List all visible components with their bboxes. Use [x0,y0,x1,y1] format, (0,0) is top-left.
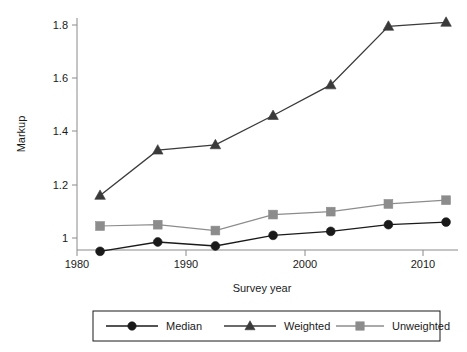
x-tick-label-2010: 2010 [411,258,435,270]
x-tick-label-2000: 2000 [293,258,317,270]
legend-label-weighted: Weighted [284,320,330,332]
data-point-unweighted-2012 [442,196,451,205]
y-tick-label-1.4: 1.4 [53,125,68,137]
markup-line-chart: 1.8 1.6 1.4 1.2 1 1980 1990 2000 2010 Ma… [0,0,467,352]
x-tick-label-1980: 1980 [65,258,89,270]
data-point-median-2002 [326,227,335,236]
y-tick-label-1.6: 1.6 [53,72,68,84]
data-point-unweighted-1987 [153,220,162,229]
chart-canvas: 1.8 1.6 1.4 1.2 1 1980 1990 2000 2010 Ma… [0,0,467,352]
y-tick-label-1.2: 1.2 [53,179,68,191]
chart-background [0,0,467,352]
data-point-unweighted-1992 [211,226,220,235]
legend-square-marker [356,322,364,330]
legend-label-median: Median [166,320,202,332]
data-point-median-1997 [269,231,278,240]
data-point-unweighted-2002 [326,207,335,216]
data-point-median-2007 [384,220,393,229]
x-axis-title: Survey year [233,282,292,294]
data-point-median-1982 [96,247,105,256]
y-axis-title: Markup [15,116,27,153]
data-point-median-2012 [442,218,451,227]
y-tick-label-1: 1 [62,232,68,244]
legend-label-unweighted: Unweighted [392,320,450,332]
legend-circle-marker [128,322,136,330]
y-tick-label-1.8: 1.8 [53,19,68,31]
data-point-unweighted-1997 [269,210,278,219]
data-point-median-1987 [153,238,162,247]
data-point-unweighted-1982 [96,222,105,231]
data-point-unweighted-2007 [384,200,393,209]
data-point-median-1992 [211,242,220,251]
x-tick-label-1990: 1990 [174,258,198,270]
